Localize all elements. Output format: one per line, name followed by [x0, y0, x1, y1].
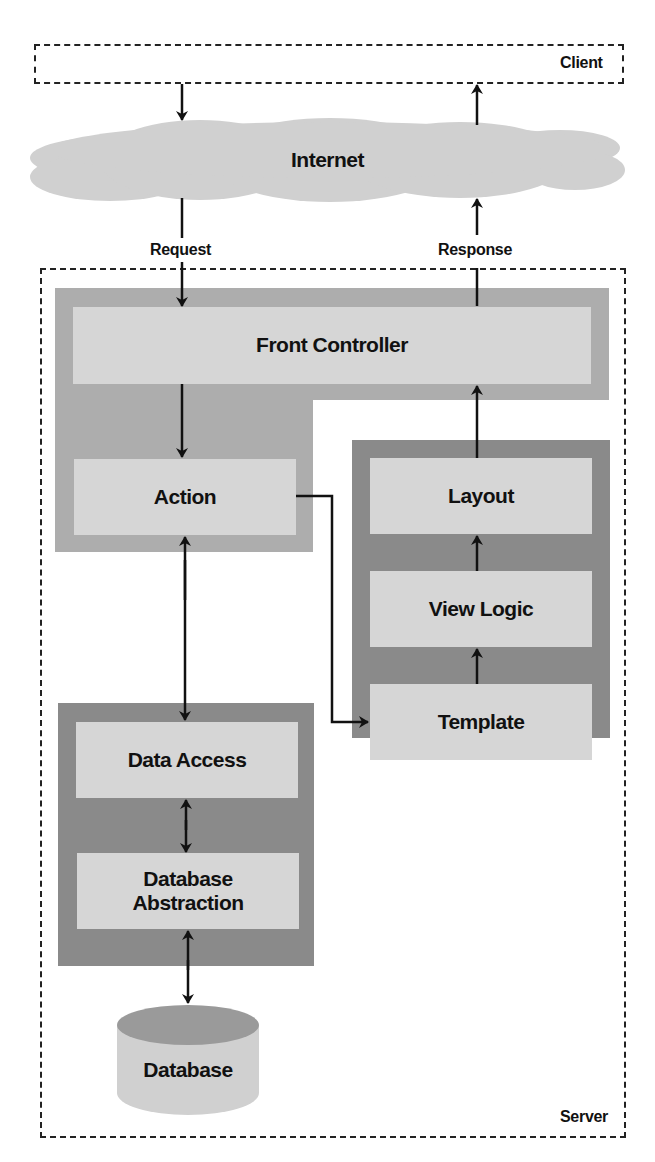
connector-arrows [0, 0, 655, 1162]
